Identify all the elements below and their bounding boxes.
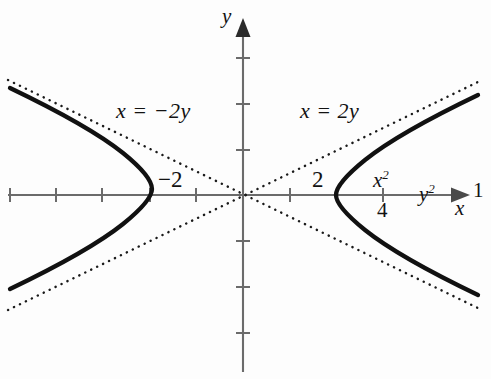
y-axis-arrowhead [236,18,251,37]
asymptote-left-label: x = −2y [116,100,191,122]
y-axis-label: y [222,6,231,27]
x-axis-label: x [455,198,464,219]
equation-right-side: 1 [473,180,484,201]
vertex-positive-label: 2 [312,168,324,191]
equation-numerator-exponent: 2 [382,167,389,182]
equation-second-term-exponent: 2 [428,181,435,196]
vertex-negative-label: −2 [158,168,182,191]
plot-canvas [0,0,491,379]
asymptote-right-label: x = 2y [300,100,359,122]
equation-second-term-base: y [419,182,428,206]
equation-numerator: x2 [373,168,389,191]
axes-group [8,18,470,372]
hyperbola-figure: x = −2y x = 2y −2 2 y x x2 4 y2 1 [0,0,491,379]
equation-second-term: y2 [419,182,435,205]
equation-numerator-base: x [373,168,382,192]
equation-denominator: 4 [377,200,388,221]
